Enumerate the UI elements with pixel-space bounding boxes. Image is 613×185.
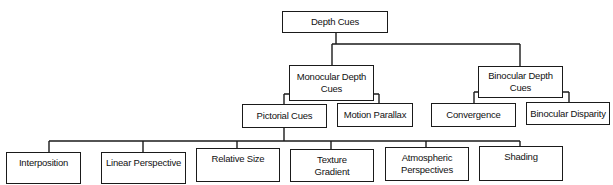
node-motion-parallax: Motion Parallax [337, 103, 413, 127]
node-texture-gradient: Texture Gradient [290, 149, 374, 182]
depth-cues-tree-diagram: Depth Cues Monocular Depth Cues Binocula… [0, 0, 613, 185]
node-depth-cues: Depth Cues [282, 11, 388, 33]
node-pictorial-cues: Pictorial Cues [242, 104, 327, 128]
node-label: Atmospheric Perspectives [392, 152, 462, 176]
node-label: Shading [504, 151, 537, 162]
node-binocular-depth-cues: Binocular Depth Cues [478, 66, 563, 98]
node-label: Texture Gradient [307, 154, 357, 178]
node-relative-size: Relative Size [196, 148, 280, 182]
node-label: Convergence [446, 109, 500, 121]
node-label: Binocular Depth Cues [486, 70, 556, 94]
node-label: Pictorial Cues [257, 110, 313, 122]
node-label: Motion Parallax [344, 109, 406, 121]
node-monocular-depth-cues: Monocular Depth Cues [289, 65, 374, 101]
node-atmospheric-perspectives: Atmospheric Perspectives [385, 147, 469, 181]
node-label: Monocular Depth Cues [297, 71, 367, 95]
node-convergence: Convergence [431, 103, 516, 127]
node-label: Linear Perspective [106, 157, 181, 168]
node-label: Depth Cues [311, 16, 359, 28]
node-label: Binocular Disparity [530, 108, 605, 120]
node-shading: Shading [479, 146, 563, 181]
node-linear-perspective: Linear Perspective [101, 152, 186, 184]
node-label: Relative Size [212, 153, 265, 164]
node-interposition: Interposition [6, 152, 81, 184]
node-binocular-disparity: Binocular Disparity [526, 102, 610, 125]
node-label: Interposition [19, 157, 68, 168]
